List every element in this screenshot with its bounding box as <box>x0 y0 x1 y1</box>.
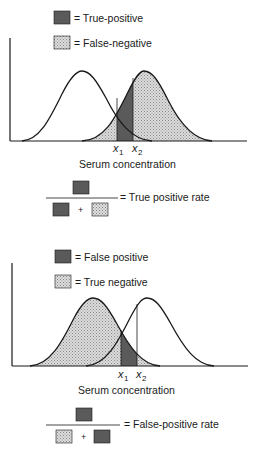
x-axis-label: Serum concentration <box>78 384 175 396</box>
stipple-swatch-icon <box>54 36 70 49</box>
svg-text:1: 1 <box>119 148 124 157</box>
legend-true-negative: = True negative <box>55 275 148 288</box>
formula-result: = True positive rate <box>120 191 210 203</box>
stipple-swatch-icon <box>55 275 71 288</box>
dark-swatch-icon <box>94 430 110 443</box>
x1-marker: x 1 <box>117 368 129 383</box>
svg-text:2: 2 <box>138 148 143 157</box>
true-positive-rate-formula: + = True positive rate <box>46 181 210 216</box>
dark-swatch-icon <box>73 181 89 194</box>
stipple-swatch-icon <box>92 203 108 216</box>
svg-text:2: 2 <box>142 374 147 383</box>
panel-top: = True-positive = False-negative x 1 <box>10 11 247 216</box>
x1-marker: x 1 <box>112 142 124 157</box>
legend-false-negative: = False-negative <box>54 36 152 49</box>
plus-sign: + <box>81 432 86 442</box>
dark-swatch-icon <box>76 408 92 421</box>
svg-text:x: x <box>135 368 142 380</box>
formula-result: = False-positive rate <box>124 418 219 430</box>
legend-false-positive: = False positive <box>55 250 148 263</box>
svg-text:x: x <box>117 368 124 380</box>
legend-label: = True negative <box>75 276 148 288</box>
svg-text:1: 1 <box>124 374 129 383</box>
legend-label: = True-positive <box>74 12 143 24</box>
dark-swatch-icon <box>53 203 69 216</box>
dark-swatch-icon <box>54 11 70 24</box>
false-negative-region-right <box>82 71 212 141</box>
x2-marker: x 2 <box>131 142 143 157</box>
svg-text:x: x <box>112 142 119 154</box>
diagram-canvas: = True-positive = False-negative x 1 <box>0 0 257 453</box>
svg-text:x: x <box>131 142 138 154</box>
legend-label: = False positive <box>75 251 148 263</box>
x-axis-label: Serum concentration <box>79 158 176 170</box>
false-positive-rate-formula: + = False-positive rate <box>46 408 219 443</box>
plus-sign: + <box>78 205 83 215</box>
legend-true-positive: = True-positive <box>54 11 143 24</box>
stipple-swatch-icon <box>56 430 72 443</box>
x2-marker: x 2 <box>135 368 147 383</box>
true-negative-region <box>30 298 160 366</box>
dark-swatch-icon <box>55 250 71 263</box>
legend-label: = False-negative <box>74 37 152 49</box>
panel-bottom: = False positive = True negative x 1 x <box>12 250 248 443</box>
